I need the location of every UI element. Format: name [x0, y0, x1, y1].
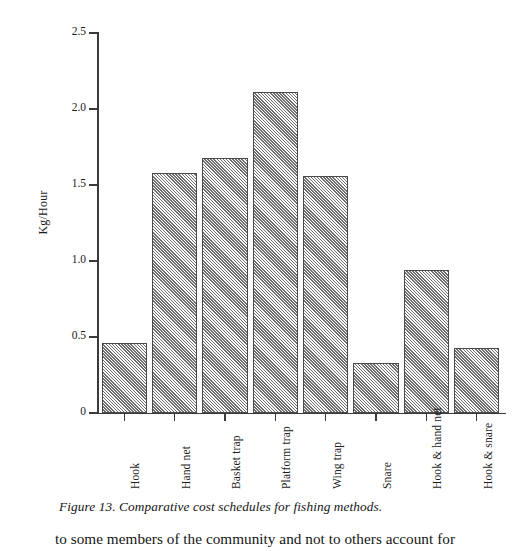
body-paragraph-line: to some members of the community and not… [55, 530, 455, 548]
y-axis-title: Kg/Hour [36, 183, 51, 243]
y-axis-tick-label: 0 [38, 405, 86, 417]
x-axis-tick [275, 413, 276, 421]
figure-caption: Figure 13. Comparative cost schedules fo… [59, 499, 382, 515]
y-axis-tick-label: 2.0 [38, 101, 86, 113]
bar [253, 92, 298, 413]
y-axis-tick [89, 336, 97, 337]
bar [202, 158, 247, 413]
x-axis-tick [476, 413, 477, 421]
bar [303, 176, 348, 413]
x-axis-tick [375, 413, 376, 421]
x-axis-label: Wing trap [331, 442, 343, 489]
x-axis-label: Hook [129, 463, 141, 489]
x-axis-tick [124, 413, 125, 421]
bar [454, 348, 499, 413]
figure-page: 00.51.01.52.02.5 Kg/Hour HookHand netBas… [0, 0, 518, 551]
y-axis-tick [89, 108, 97, 109]
y-axis-tick-label: 1.0 [38, 253, 86, 265]
bar [404, 270, 449, 413]
x-axis-tick [174, 413, 175, 421]
x-axis-label: Basket trap [230, 435, 242, 489]
x-axis-tick [325, 413, 326, 421]
bar-chart-figure: 00.51.01.52.02.5 Kg/Hour HookHand netBas… [0, 0, 518, 500]
y-axis-tick [89, 184, 97, 185]
y-axis-tick-label: 0.5 [38, 329, 86, 341]
y-axis-tick [89, 412, 97, 413]
bar [353, 363, 398, 413]
x-axis-label: Hook & hand net [431, 407, 443, 489]
bar [152, 173, 197, 413]
x-axis-tick [426, 413, 427, 421]
x-axis-tick [224, 413, 225, 421]
y-axis-tick-label: 2.5 [38, 25, 86, 37]
y-axis-tick [89, 260, 97, 261]
bar [102, 343, 147, 413]
y-axis-tick [89, 32, 97, 33]
plot-area [99, 33, 506, 413]
x-axis-label: Hook & snare [482, 423, 494, 489]
x-axis-label: Platform trap [280, 426, 292, 489]
x-axis-label: Hand net [180, 446, 192, 489]
x-axis-label: Snare [381, 462, 393, 489]
